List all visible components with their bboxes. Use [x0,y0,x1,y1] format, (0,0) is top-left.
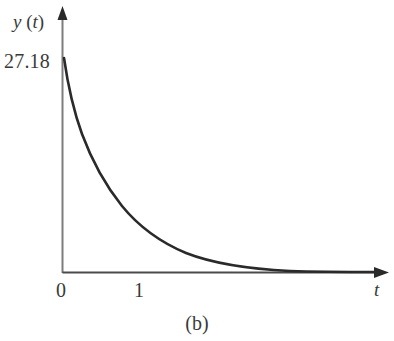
y-axis-label-close-paren: ) [38,11,44,32]
y-axis-arrowhead [58,6,68,20]
x-tick-label-1: 1 [134,280,144,300]
x-axis-label: t [374,280,379,299]
panel-caption: (b) [0,313,394,333]
y-intercept-value-label: 27.18 [4,51,50,71]
figure-panel-b: y (t) 27.18 0 1 t (b) [0,0,394,341]
y-axis-label-open-paren: ( [21,11,32,32]
y-axis-label: y (t) [13,12,44,31]
x-tick-label-0: 0 [56,280,66,300]
exponential-decay-curve [64,58,378,272]
